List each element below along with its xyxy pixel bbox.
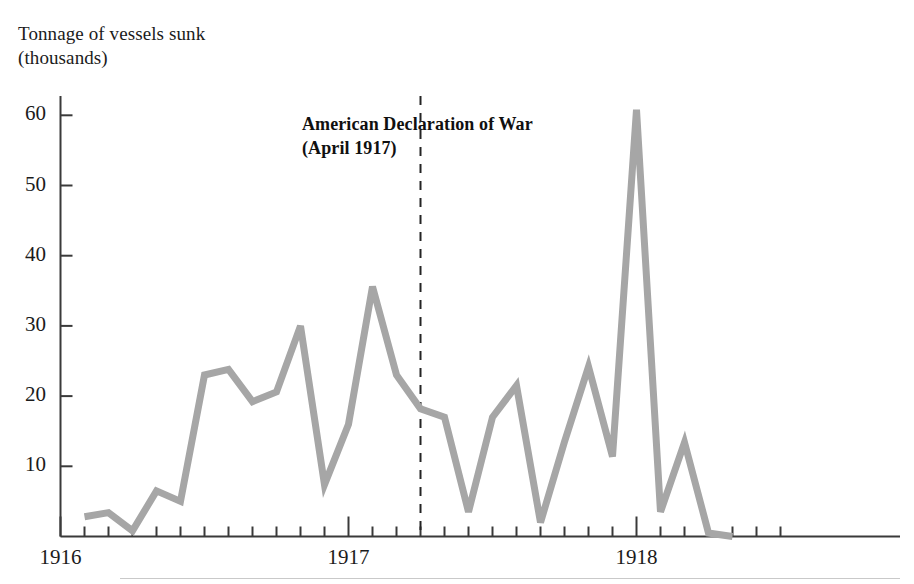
y-axis-tick-label: 20	[0, 382, 46, 407]
y-axis-tick-label: 40	[0, 242, 46, 267]
y-axis-tick-label: 50	[0, 172, 46, 197]
tonnage-data-line	[85, 110, 733, 537]
x-axis-tick-label: 1917	[328, 545, 370, 570]
y-axis-tick-label: 60	[0, 101, 46, 126]
y-axis-tick-label: 10	[0, 452, 46, 477]
plot-area	[0, 0, 914, 584]
y-axis-tick-label: 30	[0, 312, 46, 337]
chart-container: Tonnage of vessels sunk (thousands) Amer…	[0, 0, 914, 584]
footer-rule	[120, 578, 900, 579]
x-axis-tick-label: 1918	[616, 545, 658, 570]
x-axis-tick-label: 1916	[40, 545, 82, 570]
